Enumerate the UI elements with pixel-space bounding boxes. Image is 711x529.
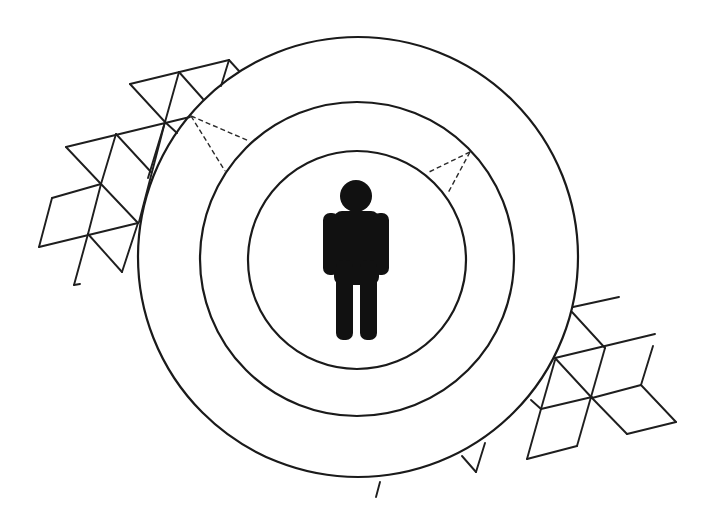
person-icon — [323, 180, 389, 340]
dashed-connector-left — [191, 116, 249, 171]
dashed-connector-right — [427, 152, 470, 193]
lattice-lower-right — [527, 297, 676, 459]
concentric-zones-diagram — [0, 0, 711, 529]
lattice-bottom-fragments — [376, 443, 485, 497]
